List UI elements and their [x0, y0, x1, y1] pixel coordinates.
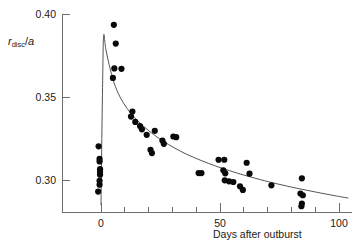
data-point	[221, 157, 227, 163]
y-axis-title-subscript: disc	[12, 40, 25, 49]
y-axis-ticks	[62, 14, 70, 180]
data-point	[132, 119, 138, 125]
y-tick-label-0.35: 0.35	[36, 91, 57, 103]
data-point	[118, 66, 124, 72]
y-tick-label-0.30: 0.30	[36, 174, 57, 186]
y-tick-label-0.40: 0.40	[36, 8, 57, 20]
data-point	[173, 134, 179, 140]
data-point	[300, 192, 306, 198]
data-point	[111, 65, 117, 71]
data-point	[110, 75, 116, 81]
scatter-plot-canvas: 0.300.350.40 050100	[0, 0, 358, 251]
data-point	[95, 189, 101, 195]
data-point	[149, 150, 155, 156]
data-point	[128, 113, 134, 119]
data-point	[96, 182, 102, 188]
data-point	[222, 170, 228, 176]
x-tick-label-0: 0	[98, 217, 104, 229]
data-point	[230, 179, 236, 185]
data-point	[96, 158, 102, 164]
y-axis-title-denominator: a	[28, 35, 34, 47]
data-point	[97, 172, 103, 178]
data-point	[299, 175, 305, 181]
data-point	[144, 132, 150, 138]
data-point	[298, 203, 304, 209]
x-axis-title: Days after outburst	[213, 228, 302, 240]
data-point	[268, 182, 274, 188]
chart-figure: 0.300.350.40 050100 rdisc/a Days after o…	[0, 0, 358, 251]
data-point	[113, 40, 119, 46]
y-axis-title: rdisc/a	[8, 36, 34, 47]
data-point	[161, 141, 167, 147]
data-point	[152, 128, 158, 134]
data-point	[240, 187, 246, 193]
data-point	[198, 170, 204, 176]
data-point	[139, 126, 145, 132]
data-point	[111, 22, 117, 28]
x-tick-label-100: 100	[330, 217, 348, 229]
data-points-group	[95, 22, 306, 210]
data-point	[96, 143, 102, 149]
y-axis-tick-labels: 0.300.350.40	[36, 8, 57, 186]
data-point	[215, 157, 221, 163]
data-point	[246, 171, 252, 177]
data-point	[244, 160, 250, 166]
